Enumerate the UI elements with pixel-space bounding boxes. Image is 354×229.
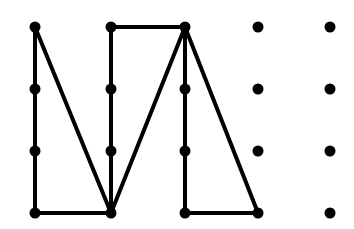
dot-r2c1 xyxy=(30,84,41,95)
dot-r4c5 xyxy=(325,208,336,219)
dot-r4c4 xyxy=(253,208,264,219)
dot-r4c1 xyxy=(30,208,41,219)
dot-r4c3 xyxy=(180,208,191,219)
dot-grid-canvas xyxy=(0,0,354,229)
dot-r3c5 xyxy=(325,146,336,157)
dot-r2c3 xyxy=(180,84,191,95)
dot-r1c1 xyxy=(30,22,41,33)
dot-r2c2 xyxy=(106,84,117,95)
dot-r1c2 xyxy=(106,22,117,33)
dot-r3c1 xyxy=(30,146,41,157)
figure-background xyxy=(0,0,354,229)
dot-r1c3 xyxy=(180,22,191,33)
dot-r3c2 xyxy=(106,146,117,157)
dot-r2c5 xyxy=(325,84,336,95)
dot-r3c4 xyxy=(253,146,264,157)
dot-grid-figure xyxy=(0,0,354,229)
dot-r1c5 xyxy=(325,22,336,33)
dot-r3c3 xyxy=(180,146,191,157)
dot-r1c4 xyxy=(253,22,264,33)
dot-r4c2 xyxy=(106,208,117,219)
dot-r2c4 xyxy=(253,84,264,95)
